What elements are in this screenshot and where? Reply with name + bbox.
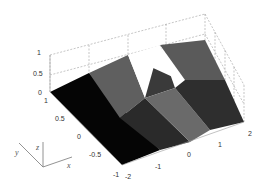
svg-text:1: 1 <box>37 49 41 56</box>
svg-text:1: 1 <box>218 141 222 148</box>
svg-text:2: 2 <box>248 130 252 137</box>
surface <box>50 40 244 165</box>
triad-y-label: y <box>14 148 19 157</box>
orientation-triad <box>19 142 72 167</box>
svg-text:0: 0 <box>187 151 191 158</box>
triad-x-label: x <box>66 161 71 170</box>
triad-z-label: z <box>35 143 40 152</box>
svg-text:1: 1 <box>44 97 48 104</box>
svg-text:0.5: 0.5 <box>55 115 65 122</box>
svg-text:0: 0 <box>77 133 81 140</box>
svg-text:0: 0 <box>38 89 42 96</box>
z-axis-ticks: 1 0.5 0 <box>33 49 43 96</box>
surface-plot: 1 0.5 0 1 0.5 0 -0.5 -1 -2 -1 0 1 2 y z … <box>0 0 264 189</box>
svg-text:-1: -1 <box>155 163 161 170</box>
svg-text:0.5: 0.5 <box>33 70 43 77</box>
svg-text:-1: -1 <box>113 171 119 178</box>
svg-text:-0.5: -0.5 <box>89 151 101 158</box>
svg-text:-2: -2 <box>125 173 131 180</box>
